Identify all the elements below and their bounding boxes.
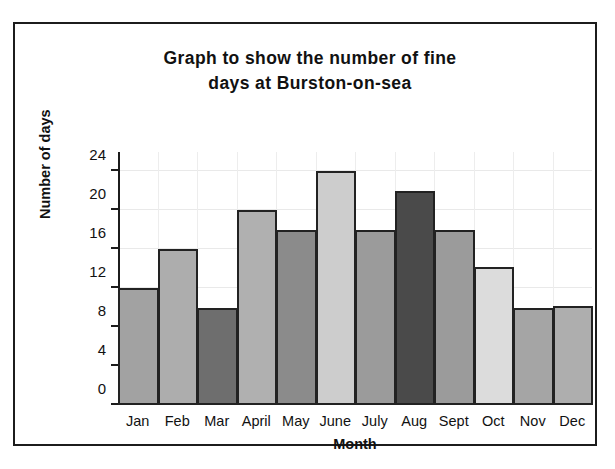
x-tick-label-sept: Sept	[439, 413, 469, 429]
x-tick-label-june: June	[320, 413, 351, 429]
x-tick-label-oct: Oct	[482, 413, 505, 429]
x-tick-label-nov: Nov	[520, 413, 546, 429]
y-axis-label: Number of days	[37, 109, 53, 219]
x-tick-label-may: May	[282, 413, 309, 429]
y-axis-tick	[111, 247, 118, 249]
y-axis-tick-label: 24	[89, 146, 106, 163]
y-axis-tick-label: 0	[98, 380, 106, 397]
bar-april	[237, 210, 278, 405]
bar-oct	[474, 267, 515, 405]
chart-frame: Graph to show the number of fine days at…	[13, 22, 597, 446]
x-tick-label-jan: Jan	[126, 413, 149, 429]
bar-dec	[553, 306, 594, 405]
x-tick-label-aug: Aug	[401, 413, 427, 429]
bar-nov	[513, 308, 554, 405]
x-tick-label-dec: Dec	[559, 413, 585, 429]
y-axis-tick-label: 4	[98, 341, 106, 358]
x-tick-label-april: April	[242, 413, 271, 429]
bar-mar	[197, 308, 238, 405]
y-axis-tick	[111, 403, 118, 405]
bar-july	[355, 230, 396, 405]
y-axis-tick	[111, 208, 118, 210]
y-axis-tick	[111, 325, 118, 327]
x-tick-label-feb: Feb	[165, 413, 190, 429]
y-axis-tick-label: 12	[89, 263, 106, 280]
y-axis-tick-label: 16	[89, 224, 106, 241]
x-axis-label: Month	[118, 436, 592, 452]
y-axis-tick	[111, 169, 118, 171]
bar-may	[276, 230, 317, 405]
bar-aug	[395, 191, 436, 405]
x-tick-label-mar: Mar	[204, 413, 229, 429]
bar-jan	[118, 288, 159, 405]
y-axis-tick	[111, 364, 118, 366]
y-axis-tick	[111, 286, 118, 288]
y-axis-tick-label: 8	[98, 302, 106, 319]
x-tick-label-july: July	[362, 413, 388, 429]
chart-title: Graph to show the number of fine days at…	[75, 46, 545, 97]
bar-june	[316, 171, 357, 405]
bar-feb	[158, 249, 199, 405]
y-axis-tick-label: 20	[89, 185, 106, 202]
plot-area: 04812162024 JanFebMarAprilMayJuneJulyAug…	[118, 152, 592, 405]
bar-sept	[434, 230, 475, 405]
